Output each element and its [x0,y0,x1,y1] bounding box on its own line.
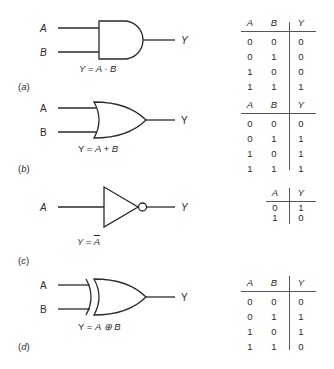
and-equation: Y = A · B [79,64,116,74]
header-y: Y [294,188,308,198]
cell: 1 [267,52,281,62]
xor-gate-symbol [58,279,175,315]
or-input-a-label: A [40,104,47,114]
cell: 0 [267,149,281,159]
equation-expr: A · B [96,63,117,74]
xor-output-label: Y [181,293,188,303]
cell: 0 [243,297,257,307]
header-a: A [243,100,257,110]
header-divider [241,113,316,114]
equation-lhs: Y = [78,143,95,154]
cell: 1 [243,149,257,159]
column-divider [289,22,290,96]
or-input-b-label: B [40,128,47,138]
cell: 0 [294,213,308,223]
equation-expr: A + B [95,143,118,154]
cell: 0 [243,312,257,322]
cell: 0 [294,119,308,129]
equation-lhs: Y = [78,321,95,332]
cell: 0 [294,37,308,47]
and-input-a-label: A [40,24,47,34]
not-equation: Y = A [77,237,100,247]
cell: 0 [243,37,257,47]
or-output-label: Y [181,116,188,126]
cell: 0 [294,297,308,307]
caption-letter: a [21,81,26,92]
not-gate-symbol [58,187,175,227]
cell: 1 [243,164,257,174]
cell: 1 [243,342,257,352]
header-b: B [267,18,281,28]
equation-lhs: Y = [77,236,94,247]
cell: 1 [294,134,308,144]
header-a: A [243,278,257,288]
cell: 1 [294,327,308,337]
header-y: Y [294,18,308,28]
cell: 0 [267,119,281,129]
header-divider [241,31,316,32]
caption-d: (d) [18,342,30,352]
cell: 1 [243,67,257,77]
cell: 0 [294,52,308,62]
not-output-label: Y [181,203,188,213]
cell: 1 [294,164,308,174]
xor-equation: Y = A ⊕ B [78,322,121,332]
column-divider [289,276,290,350]
cell: 1 [267,164,281,174]
caption-b: (b) [18,164,30,174]
column-divider [289,96,290,170]
caption-letter: d [21,341,26,352]
and-output-label: Y [181,36,188,46]
cell: 1 [243,82,257,92]
logic-gates-drawing [0,0,334,369]
cell: 1 [267,342,281,352]
cell: 1 [267,312,281,322]
header-b: B [267,278,281,288]
or-equation: Y = A + B [78,144,118,154]
caption-a: (a) [18,82,30,92]
header-y: Y [294,100,308,110]
cell: 0 [243,134,257,144]
cell: 0 [294,67,308,77]
cell: 0 [267,37,281,47]
cell: 1 [268,213,282,223]
header-y: Y [294,278,308,288]
xor-input-b-label: B [40,305,47,315]
cell: 0 [294,342,308,352]
cell: 1 [294,312,308,322]
or-gate-symbol [58,102,175,138]
not-input-a-label: A [40,203,47,213]
header-a: A [243,18,257,28]
cell: 0 [267,297,281,307]
equation-expr: A ⊕ B [95,321,121,332]
caption-letter: c [21,255,26,266]
and-gate-symbol [58,21,175,59]
caption-c: (c) [18,256,29,266]
header-b: B [267,100,281,110]
and-input-b-label: B [40,48,47,58]
header-a: A [268,188,282,198]
cell: 1 [243,327,257,337]
cell: 0 [243,119,257,129]
cell: 0 [267,67,281,77]
column-divider [289,188,290,224]
cell: 0 [243,52,257,62]
cell: 1 [267,82,281,92]
header-divider [241,291,316,292]
cell: 0 [267,327,281,337]
equation-lhs: Y = [79,63,96,74]
caption-letter: b [21,163,26,174]
cell: 1 [294,82,308,92]
equation-expr: A [94,236,100,247]
xor-input-a-label: A [40,281,47,291]
cell: 1 [267,134,281,144]
cell: 1 [294,149,308,159]
